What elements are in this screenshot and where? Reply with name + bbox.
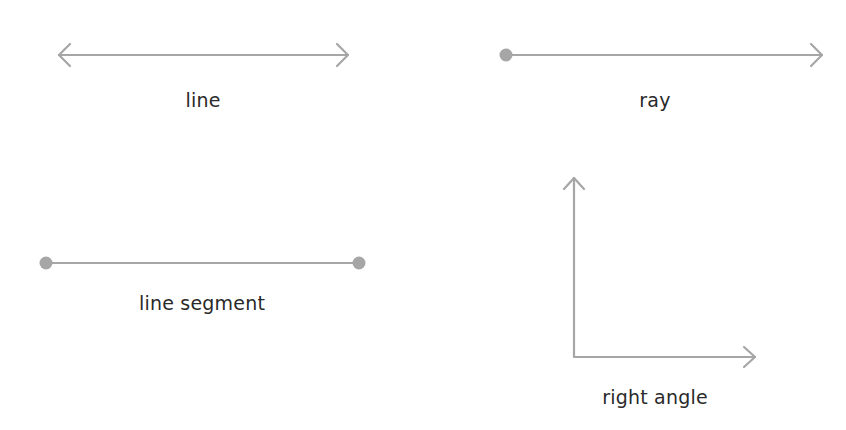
segment-endpoint-dot-right (353, 257, 366, 270)
ray-figure (506, 44, 822, 66)
ray-label: ray (639, 89, 670, 111)
line-segment-label: line segment (139, 292, 265, 314)
angle-stroke (574, 178, 755, 357)
ray-endpoint-dot (500, 49, 513, 62)
right-angle-figure (564, 178, 755, 367)
right-angle-label: right angle (602, 386, 708, 408)
segment-endpoint-dot-left (40, 257, 53, 270)
line-label: line (185, 89, 220, 111)
line-figure (59, 44, 348, 66)
geometry-diagram (0, 0, 846, 430)
